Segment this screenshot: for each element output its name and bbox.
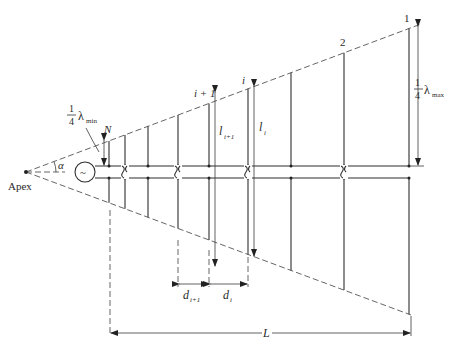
junction-dot xyxy=(290,165,293,168)
svg-text:1: 1 xyxy=(69,103,74,114)
l-i-plus-1-sub: i+1 xyxy=(224,133,234,141)
l-i-plus-1-label: l xyxy=(219,124,223,138)
dipole-element-i-1 xyxy=(208,103,211,240)
junction-dot xyxy=(108,165,111,168)
lpda-diagram: Apex α ~ N i + 1 i 2 1 1 4 λ min 1 4 λ m… xyxy=(0,0,458,352)
dipole-element-n-1 xyxy=(121,135,129,209)
apex-point xyxy=(24,170,28,174)
junction-dot xyxy=(290,177,293,180)
dipole-element-i xyxy=(244,89,252,255)
junction-dot xyxy=(147,165,150,168)
dipole-element-n-2 xyxy=(147,126,150,217)
dipole-element-n-3 xyxy=(174,115,182,228)
junction-dot xyxy=(108,177,111,180)
dipole-element-n xyxy=(108,141,111,203)
dipole-element-4 xyxy=(290,73,293,271)
svg-text:4: 4 xyxy=(415,90,420,101)
l-i-sub: i xyxy=(264,129,266,137)
junction-dot xyxy=(408,177,411,180)
svg-text:1: 1 xyxy=(415,77,420,88)
svg-text:λ: λ xyxy=(78,109,84,123)
svg-text:min: min xyxy=(86,117,97,125)
dipole-element-1 xyxy=(408,28,411,314)
svg-text:λ: λ xyxy=(424,83,430,97)
cone-upper-boundary xyxy=(26,24,421,172)
alpha-arc xyxy=(54,162,56,173)
d-i-plus-1-sub: i+1 xyxy=(190,296,200,304)
lambda-min-label: 1 4 λ min xyxy=(67,103,97,127)
svg-text:4: 4 xyxy=(69,116,74,127)
alpha-label: α xyxy=(58,159,64,171)
dipole-element-2 xyxy=(340,53,348,290)
element-i-plus-1-label: i + 1 xyxy=(194,87,215,99)
d-i-label: d xyxy=(223,288,230,302)
junction-dot xyxy=(147,177,150,180)
l-total-label: L xyxy=(262,326,270,340)
d-i-sub: i xyxy=(230,296,232,304)
lambda-max-label: 1 4 λ max xyxy=(414,77,445,101)
junction-dot xyxy=(208,177,211,180)
apex-label: Apex xyxy=(8,180,32,192)
source-symbol: ~ xyxy=(80,166,86,178)
element-1-label: 1 xyxy=(404,12,410,24)
element-2-label: 2 xyxy=(340,36,346,48)
element-i-label: i xyxy=(242,74,245,86)
dipole-elements xyxy=(108,28,411,314)
junction-dot xyxy=(208,165,211,168)
d-i-plus-1-label: d xyxy=(183,288,190,302)
element-n-label: N xyxy=(103,123,112,135)
svg-text:max: max xyxy=(432,91,445,99)
cone-lower-boundary xyxy=(26,172,411,315)
l-i-label: l xyxy=(259,120,263,134)
